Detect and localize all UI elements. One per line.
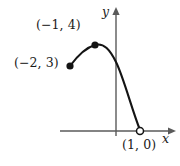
- graph-figure: (−1, 4) (−2, 3) (1, 0) y x: [0, 0, 180, 166]
- label-point-neg2-3: (−2, 3): [14, 55, 59, 70]
- y-axis-arrow-icon: [112, 7, 119, 15]
- curve-path: [70, 45, 140, 130]
- marker-open-point-1-0: [137, 128, 144, 135]
- marker-closed-point-neg1-4: [91, 41, 98, 48]
- marker-closed-point-neg2-3: [66, 62, 73, 69]
- x-axis-label: x: [162, 131, 169, 146]
- x-axis-arrow-icon: [168, 127, 176, 134]
- label-point-1-0: (1, 0): [122, 137, 156, 152]
- label-point-neg1-4: (−1, 4): [36, 17, 81, 32]
- y-axis-label: y: [102, 4, 109, 19]
